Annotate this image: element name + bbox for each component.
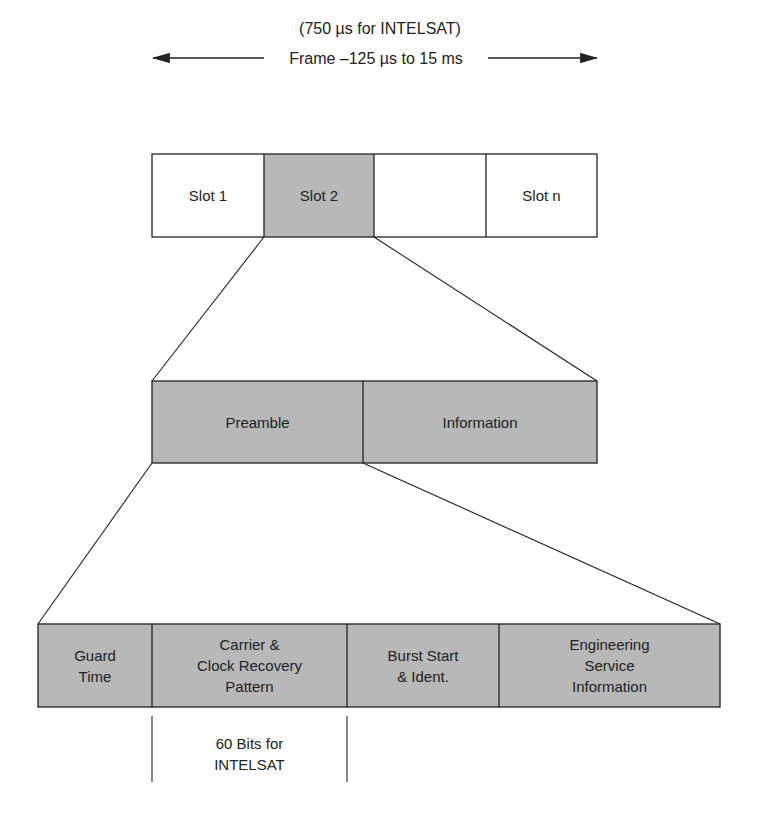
burst-start-ident-cell: Burst Start & Ident. <box>347 624 499 707</box>
slot-empty <box>374 154 486 237</box>
bits-annotation: 60 Bits for INTELSAT <box>152 730 347 778</box>
frame-subtitle: (750 µs for INTELSAT) <box>230 16 530 40</box>
engineering-service-cell: Engineering Service Information <box>499 624 720 707</box>
carrier-clock-recovery-cell: Carrier & Clock Recovery Pattern <box>152 624 347 707</box>
guard-time-cell: Guard Time <box>38 624 152 707</box>
slot-2: Slot 2 <box>264 154 374 237</box>
information-cell: Information <box>363 381 597 463</box>
slot-n: Slot n <box>486 154 597 237</box>
frame-duration-label: Frame –125 µs to 15 ms <box>265 46 487 70</box>
preamble-cell: Preamble <box>152 381 363 463</box>
slot-1: Slot 1 <box>152 154 264 237</box>
